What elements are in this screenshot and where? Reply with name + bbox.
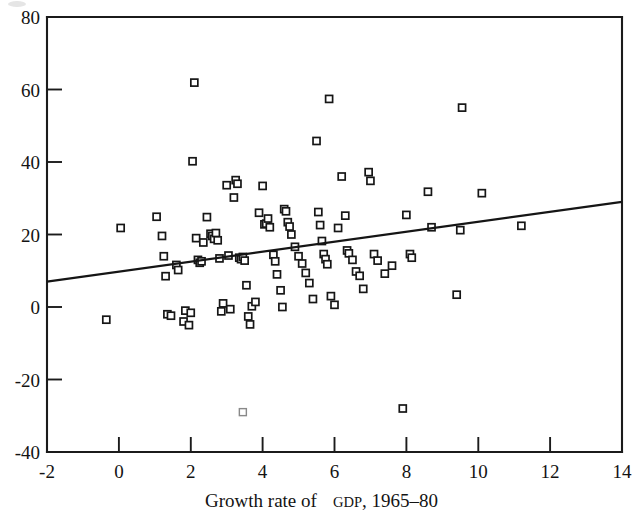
x-tick-label: 0 <box>114 461 124 482</box>
data-point <box>265 215 272 222</box>
data-point <box>302 269 309 276</box>
data-point <box>247 321 254 328</box>
data-point <box>367 177 374 184</box>
y-tick-label: 60 <box>21 80 40 101</box>
data-point <box>218 308 225 315</box>
x-tick-label: 12 <box>541 461 560 482</box>
data-point <box>399 405 406 412</box>
x-axis-title-before: Growth rate of <box>205 490 318 511</box>
data-point <box>117 224 124 231</box>
data-point <box>313 137 320 144</box>
data-point <box>175 267 182 274</box>
data-point <box>309 296 316 303</box>
data-point <box>457 227 464 234</box>
data-point <box>220 300 227 307</box>
data-point <box>381 270 388 277</box>
y-tick-label: -40 <box>15 442 40 463</box>
y-tick-label: -20 <box>15 370 40 391</box>
data-point <box>259 182 266 189</box>
data-point <box>200 239 207 246</box>
x-tick-label: 2 <box>186 461 196 482</box>
data-point <box>153 213 160 220</box>
y-tick-label: 20 <box>21 225 40 246</box>
data-point <box>324 261 331 268</box>
data-point <box>187 309 194 316</box>
x-axis-title: Growth rate of GDP , 1965–80 <box>205 490 438 511</box>
x-tick-label: 6 <box>330 461 340 482</box>
data-point <box>306 280 313 287</box>
data-point <box>288 231 295 238</box>
data-point <box>331 301 338 308</box>
data-point <box>360 285 367 292</box>
data-point <box>277 287 284 294</box>
data-point <box>252 298 259 305</box>
data-point <box>223 182 230 189</box>
data-point <box>374 257 381 264</box>
x-axis-ticks <box>47 437 622 452</box>
data-point <box>365 169 372 176</box>
data-point <box>317 222 324 229</box>
x-tick-labels: -2 0 2 4 6 8 10 12 14 <box>39 461 632 482</box>
y-axis-ticks <box>47 17 62 452</box>
data-point <box>241 257 248 264</box>
data-point <box>189 158 196 165</box>
x-axis-title-smallcaps: GDP <box>333 494 362 510</box>
data-point <box>266 224 273 231</box>
data-point <box>478 190 485 197</box>
data-point <box>243 282 250 289</box>
y-tick-label: 0 <box>31 297 41 318</box>
data-point <box>326 95 333 102</box>
data-point <box>245 313 252 320</box>
data-point <box>193 235 200 242</box>
x-tick-label: 4 <box>258 461 268 482</box>
data-point <box>356 272 363 279</box>
y-tick-label: 80 <box>21 7 40 28</box>
x-tick-label: 14 <box>613 461 633 482</box>
x-tick-label: 8 <box>402 461 412 482</box>
data-point <box>299 260 306 267</box>
data-point <box>315 209 322 216</box>
data-point <box>459 104 466 111</box>
data-point <box>159 232 166 239</box>
data-point <box>272 258 279 265</box>
data-point <box>185 322 192 329</box>
data-point <box>230 194 237 201</box>
data-point <box>403 211 410 218</box>
y-tick-label: 40 <box>21 152 40 173</box>
data-point <box>227 306 234 313</box>
data-point <box>408 254 415 261</box>
plot-frame <box>47 17 622 452</box>
data-point <box>214 237 221 244</box>
x-axis-title-after: , 1965–80 <box>362 490 438 511</box>
x-tick-label: -2 <box>39 461 55 482</box>
data-point <box>162 273 169 280</box>
data-point <box>103 316 110 323</box>
data-point <box>335 224 342 231</box>
data-point <box>389 262 396 269</box>
data-point <box>212 230 219 237</box>
figure-container: 80 60 40 20 0 -20 -40 -2 0 2 4 6 8 10 12… <box>0 0 639 515</box>
data-points-layer <box>103 79 525 416</box>
data-point <box>338 173 345 180</box>
data-point <box>191 79 198 86</box>
data-point <box>256 209 263 216</box>
trend-line-layer <box>47 202 622 282</box>
y-tick-labels: 80 60 40 20 0 -20 -40 <box>15 7 40 463</box>
data-point <box>453 291 460 298</box>
data-point <box>234 180 241 187</box>
data-point <box>274 271 281 278</box>
regression-line <box>47 202 622 282</box>
data-point <box>342 212 349 219</box>
data-point <box>279 304 286 311</box>
data-point <box>424 188 431 195</box>
scatter-plot: 80 60 40 20 0 -20 -40 -2 0 2 4 6 8 10 12… <box>0 0 639 515</box>
data-point <box>349 256 356 263</box>
data-point <box>167 312 174 319</box>
data-point <box>282 208 289 215</box>
data-point <box>518 222 525 229</box>
data-point <box>160 253 167 260</box>
data-point <box>239 409 246 416</box>
data-point <box>295 253 302 260</box>
x-tick-label: 10 <box>469 461 488 482</box>
data-point <box>286 223 293 230</box>
